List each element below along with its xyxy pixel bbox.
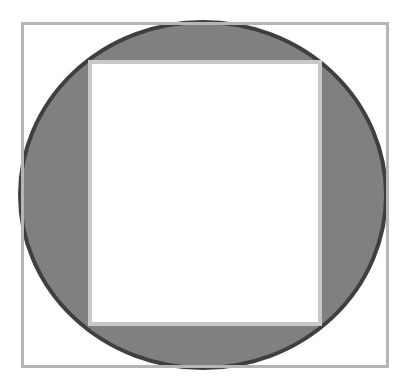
inner-square: [90, 62, 320, 324]
figure-canvas: [0, 0, 412, 384]
figure-svg: [0, 0, 412, 384]
